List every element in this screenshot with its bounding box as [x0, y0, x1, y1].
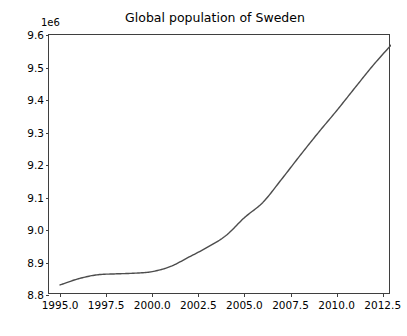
- y-tick-label: 9.4: [27, 95, 44, 106]
- x-tick-label: 2002.5: [180, 299, 217, 311]
- y-tick-label: 9.6: [27, 30, 44, 41]
- x-tick-label: 2005.0: [226, 299, 263, 311]
- chart-title: Global population of Sweden: [40, 10, 390, 25]
- y-tick-mark: [46, 263, 50, 264]
- y-tick-label: 9.5: [27, 62, 44, 73]
- x-tick-label: 2012.5: [364, 299, 401, 311]
- x-tick-mark: [60, 293, 61, 297]
- x-tick-label: 1997.5: [88, 299, 125, 311]
- x-tick-mark: [337, 293, 338, 297]
- y-tick-mark: [46, 295, 50, 296]
- population-line-series: [60, 44, 391, 285]
- x-tick-mark: [383, 293, 384, 297]
- x-tick-mark: [152, 293, 153, 297]
- x-tick-mark: [244, 293, 245, 297]
- y-tick-mark: [46, 133, 50, 134]
- y-tick-mark: [46, 165, 50, 166]
- y-tick-mark: [46, 198, 50, 199]
- figure-canvas: Global population of Sweden 1e6 8.88.99.…: [0, 0, 407, 336]
- y-tick-label: 9.2: [27, 160, 44, 171]
- y-tick-label: 9.1: [27, 192, 44, 203]
- x-tick-label: 1995.0: [42, 299, 79, 311]
- y-tick-label: 9.3: [27, 127, 44, 138]
- y-tick-mark: [46, 68, 50, 69]
- plot-area: [49, 35, 391, 295]
- x-tick-mark: [106, 293, 107, 297]
- x-tick-mark: [291, 293, 292, 297]
- y-tick-mark: [46, 100, 50, 101]
- x-tick-mark: [198, 293, 199, 297]
- y-tick-label: 8.9: [27, 257, 44, 268]
- y-tick-mark: [46, 230, 50, 231]
- y-tick-mark: [46, 35, 50, 36]
- x-tick-label: 2010.0: [318, 299, 355, 311]
- x-tick-label: 2000.0: [134, 299, 171, 311]
- plot-axes: 8.88.99.09.19.29.39.49.59.6 1995.01997.5…: [48, 34, 390, 294]
- y-tick-label: 9.0: [27, 225, 44, 236]
- y-axis-offset-label: 1e6: [41, 17, 60, 29]
- x-tick-label: 2007.5: [272, 299, 309, 311]
